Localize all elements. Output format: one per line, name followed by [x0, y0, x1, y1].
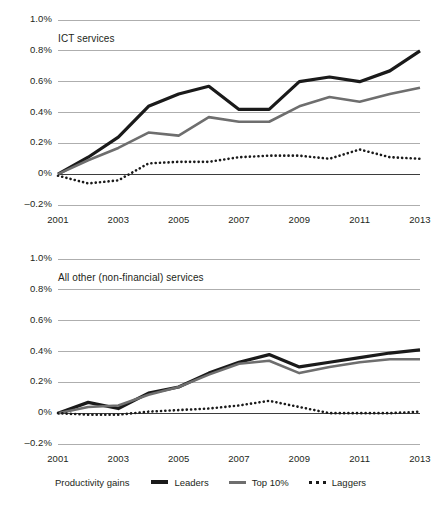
legend-item-leaders: Leaders [151, 477, 208, 488]
y-axis-tick-label: 0.6% [8, 75, 52, 86]
plot-area-ict [0, 0, 436, 245]
y-axis-tick-label: 0.4% [8, 345, 52, 356]
y-axis-tick-label: 0.2% [8, 136, 52, 147]
y-axis-tick-label: 0.4% [8, 106, 52, 117]
chart-page: ICT services 1.0%0.8%0.6%0.4%0.2%0%–0.2%… [0, 0, 436, 511]
y-axis-tick-label: 0% [8, 406, 52, 417]
x-axis-tick-label: 2007 [219, 214, 259, 225]
series-line-leaders [58, 350, 420, 413]
y-axis-tick-label: 0.6% [8, 314, 52, 325]
x-axis-tick-label: 2007 [219, 453, 259, 464]
y-axis-tick-label: 0.8% [8, 283, 52, 294]
y-axis-tick-label: 0% [8, 167, 52, 178]
y-axis-tick-label: –0.2% [8, 198, 52, 209]
x-axis-tick-label: 2013 [400, 453, 436, 464]
x-axis-tick-label: 2013 [400, 214, 436, 225]
x-axis-tick-label: 2009 [279, 453, 319, 464]
y-axis-tick-label: –0.2% [8, 437, 52, 448]
legend-item-laggers: Laggers [309, 477, 366, 488]
chart-panel-ict-services: ICT services 1.0%0.8%0.6%0.4%0.2%0%–0.2%… [0, 0, 436, 245]
y-axis-tick-label: 1.0% [8, 252, 52, 263]
x-axis-tick-label: 2005 [159, 214, 199, 225]
legend-label-laggers: Laggers [332, 477, 366, 488]
legend-label-top10: Top 10% [252, 477, 289, 488]
y-axis-tick-label: 0.8% [8, 44, 52, 55]
x-axis-tick-label: 2001 [38, 453, 78, 464]
x-axis-tick-label: 2003 [98, 214, 138, 225]
x-axis-tick-label: 2011 [340, 453, 380, 464]
x-axis-tick-label: 2005 [159, 453, 199, 464]
y-axis-tick-label: 1.0% [8, 13, 52, 24]
legend-label-leaders: Leaders [174, 477, 208, 488]
x-axis-tick-label: 2003 [98, 453, 138, 464]
legend-item-top10: Top 10% [229, 477, 289, 488]
x-axis-tick-label: 2001 [38, 214, 78, 225]
series-line-laggers [58, 150, 420, 184]
series-line-top-10 [58, 88, 420, 174]
x-axis-tick-label: 2011 [340, 214, 380, 225]
solid-gray-line-icon [229, 481, 246, 484]
legend-title: Productivity gains [55, 477, 129, 488]
chart-panel-all-other-services: All other (non-financial) services 1.0%0… [0, 250, 436, 465]
chart-legend: Productivity gains Leaders Top 10% Lagge… [0, 470, 436, 494]
solid-thick-black-line-icon [151, 480, 168, 483]
x-axis-tick-label: 2009 [279, 214, 319, 225]
y-axis-tick-label: 0.2% [8, 375, 52, 386]
dotted-black-line-icon [309, 481, 326, 484]
plot-area-other [0, 250, 436, 465]
